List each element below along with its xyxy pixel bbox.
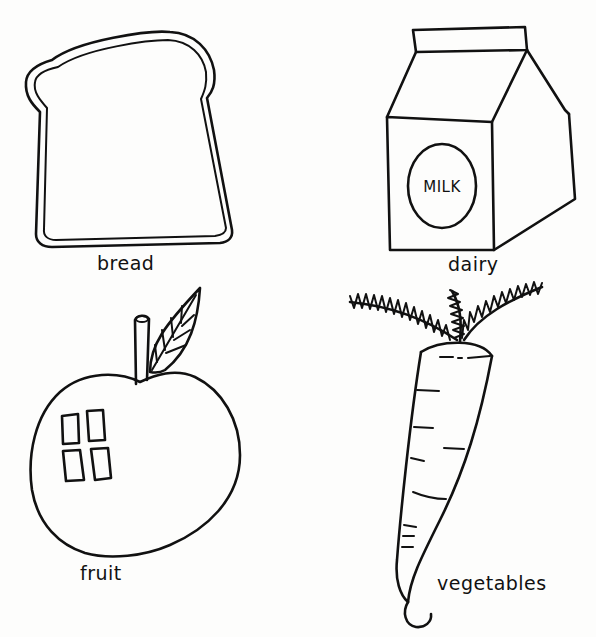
drawing-surface: MILK xyxy=(0,0,596,637)
food-groups-illustration: MILK xyxy=(0,0,596,637)
milk-carton-label-text: MILK xyxy=(423,178,461,196)
bread-label: bread xyxy=(97,252,154,274)
bread-slice-icon xyxy=(26,32,232,247)
apple-window-icon xyxy=(62,410,111,481)
milk-carton-icon: MILK xyxy=(387,27,575,250)
carrot-greens-icon xyxy=(350,282,542,342)
vegetables-label: vegetables xyxy=(437,572,547,594)
apple-icon xyxy=(31,288,240,556)
dairy-label: dairy xyxy=(448,253,499,275)
fruit-label: fruit xyxy=(80,562,122,584)
